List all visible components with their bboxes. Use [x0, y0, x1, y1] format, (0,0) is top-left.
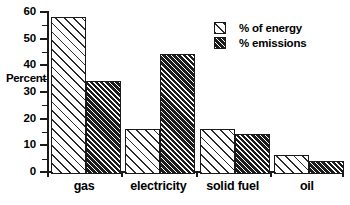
x-axis-category-label: oil [270, 180, 344, 193]
y-tick-major [40, 91, 47, 93]
legend-label: % emissions [239, 37, 306, 49]
legend-swatch [214, 37, 226, 49]
legend-item: % emissions [214, 35, 306, 50]
bar [86, 81, 121, 174]
bar [235, 134, 270, 174]
bar [309, 161, 344, 174]
bar [51, 17, 86, 174]
y-tick-major [40, 144, 47, 146]
y-axis-title: Percent [0, 73, 46, 84]
legend: % of energy% emissions [214, 20, 306, 50]
y-tick-major [40, 11, 47, 13]
x-axis-category-label: electricity [121, 180, 195, 193]
legend-item: % of energy [214, 20, 306, 35]
bar [200, 129, 235, 174]
y-tick-label: 60 [0, 6, 36, 17]
y-tick-major [40, 38, 47, 40]
y-tick-major [40, 64, 47, 66]
y-tick-label: 20 [0, 113, 36, 124]
y-tick-label: 10 [0, 139, 36, 150]
x-axis-category-label: gas [47, 180, 121, 193]
y-tick-major [40, 171, 47, 173]
x-axis-category-label: solid fuel [196, 180, 270, 193]
y-tick-label: 40 [0, 59, 36, 70]
y-tick-label: 0 [0, 166, 36, 177]
legend-swatch [214, 22, 226, 34]
bar [160, 54, 195, 174]
y-tick-major [40, 118, 47, 120]
y-tick-label: 50 [0, 33, 36, 44]
bar [125, 129, 160, 174]
bar-chart: Percent 0102030405060 gaselectricitysoli… [0, 0, 350, 205]
bar [274, 155, 309, 174]
y-tick-label: 30 [0, 86, 36, 97]
legend-label: % of energy [239, 22, 302, 34]
